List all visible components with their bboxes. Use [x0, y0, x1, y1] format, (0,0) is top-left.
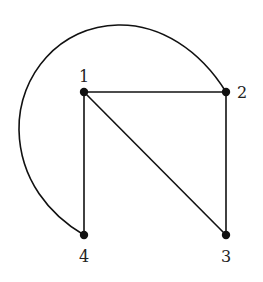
edges [19, 25, 226, 235]
node-2 [222, 88, 230, 96]
labels: 1 2 3 4 [79, 67, 247, 266]
node-label-2: 2 [237, 83, 247, 102]
node-label-1: 1 [79, 67, 89, 86]
node-1 [80, 88, 88, 96]
node-label-3: 3 [221, 247, 231, 266]
graph-diagram: 1 2 3 4 [0, 0, 263, 282]
node-4 [80, 231, 88, 239]
edge-1-3 [84, 92, 226, 235]
node-label-4: 4 [79, 247, 89, 266]
node-3 [222, 231, 230, 239]
